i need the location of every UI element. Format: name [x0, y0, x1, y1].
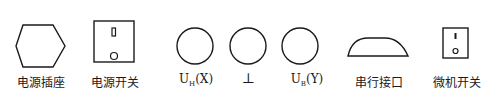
ub-suffix: (Y): [306, 72, 323, 86]
uh-suffix: (X): [195, 72, 213, 86]
ub-main: U: [291, 72, 301, 86]
mcu-switch-label: 微机开关: [430, 73, 484, 90]
uh-x-terminal-icon: [177, 28, 213, 64]
serial-port-icon: [348, 38, 408, 56]
ground-label: ⊥: [238, 70, 258, 86]
power-socket-hexagon-icon: [16, 25, 65, 67]
uh-x-label: UH(X): [176, 72, 216, 88]
ub-y-terminal-icon: [282, 28, 318, 64]
ground-terminal-icon: [230, 28, 266, 64]
power-switch-icon: [94, 21, 134, 62]
power-socket-label: 电源插座: [14, 73, 68, 90]
uh-main: U: [179, 72, 189, 86]
serial-port-label: 串行接口: [352, 73, 406, 90]
ub-y-label: UB(Y): [287, 72, 327, 88]
mcu-switch-icon: [443, 28, 468, 58]
power-switch-label: 电源开关: [88, 73, 142, 90]
